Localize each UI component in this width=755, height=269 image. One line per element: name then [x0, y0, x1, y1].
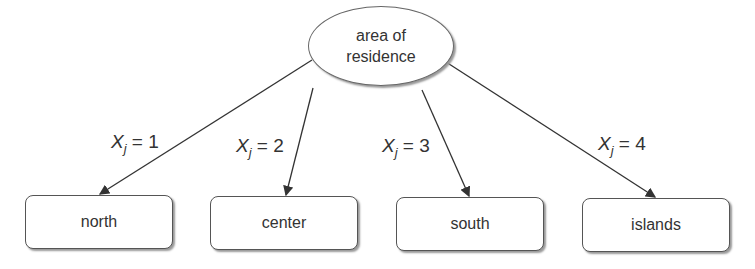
root-label-line2: residence — [346, 46, 415, 67]
edge-center — [286, 88, 313, 195]
leaf-label: south — [450, 215, 489, 233]
edge-north — [100, 60, 312, 194]
edge-label-north: Xj = 1 — [111, 131, 159, 156]
leaf-node-north: north — [25, 195, 173, 249]
root-node-area-of-residence: area of residence — [308, 6, 454, 86]
leaf-node-center: center — [210, 196, 358, 250]
leaf-label: north — [81, 213, 117, 231]
leaf-node-south: south — [396, 197, 544, 251]
leaf-label: islands — [631, 216, 681, 234]
leaf-label: center — [262, 214, 306, 232]
edge-label-south: Xj = 3 — [382, 135, 430, 160]
edge-label-center: Xj = 2 — [236, 135, 284, 160]
edge-islands — [446, 62, 655, 197]
edge-label-islands: Xj = 4 — [598, 133, 646, 158]
leaf-node-islands: islands — [582, 198, 730, 252]
root-label-line1: area of — [346, 25, 415, 46]
